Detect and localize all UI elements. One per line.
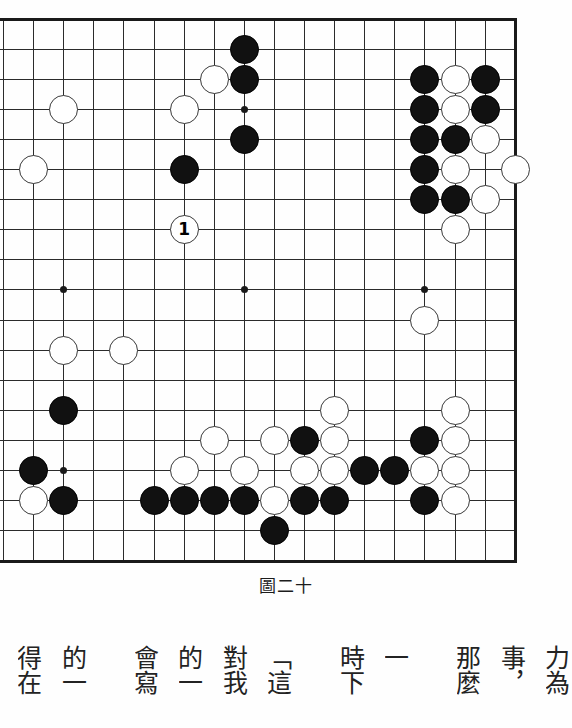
white-stone[interactable] <box>441 396 470 425</box>
white-stone[interactable] <box>200 65 229 94</box>
star-point <box>241 106 248 113</box>
grid-line-vertical <box>123 19 124 562</box>
white-stone[interactable] <box>441 486 470 515</box>
star-point <box>421 286 428 293</box>
text-column: 的一 <box>179 645 205 728</box>
text-column: 一 <box>385 645 411 728</box>
grid-line-horizontal <box>0 289 516 290</box>
white-stone[interactable] <box>260 426 289 455</box>
black-stone[interactable] <box>410 185 439 214</box>
white-stone[interactable] <box>410 306 439 335</box>
white-stone[interactable] <box>290 456 319 485</box>
black-stone[interactable] <box>410 125 439 154</box>
text-column: 「這 <box>268 645 294 728</box>
grid-line-vertical <box>214 19 215 562</box>
grid-line-vertical <box>154 19 155 562</box>
black-stone[interactable] <box>230 486 259 515</box>
grid-line-horizontal <box>0 259 516 260</box>
white-stone[interactable] <box>441 65 470 94</box>
white-stone[interactable] <box>501 155 530 184</box>
white-stone[interactable] <box>170 456 199 485</box>
white-stone[interactable] <box>170 95 199 124</box>
white-stone[interactable] <box>320 456 349 485</box>
board-edge-top <box>0 18 517 21</box>
page-root: 1 圖二十 力為事，那麼一時下「這對我的一會寫的一得在 <box>0 0 572 728</box>
black-stone[interactable] <box>471 95 500 124</box>
text-column: 對我 <box>223 645 249 728</box>
white-stone[interactable] <box>441 426 470 455</box>
grid-line-horizontal <box>0 229 516 230</box>
black-stone[interactable] <box>410 95 439 124</box>
grid-line-horizontal <box>0 530 516 531</box>
white-stone[interactable] <box>19 155 48 184</box>
white-stone[interactable] <box>410 456 439 485</box>
white-stone[interactable] <box>19 486 48 515</box>
board-edge-right <box>514 18 517 563</box>
text-column: 那麼 <box>457 645 483 728</box>
text-column: 的一 <box>62 645 88 728</box>
star-point <box>60 286 67 293</box>
black-stone[interactable] <box>49 396 78 425</box>
black-stone[interactable] <box>410 155 439 184</box>
black-stone[interactable] <box>290 486 319 515</box>
star-point <box>241 286 248 293</box>
figure-caption: 圖二十 <box>0 572 572 597</box>
black-stone[interactable] <box>290 426 319 455</box>
grid-line-vertical <box>93 19 94 562</box>
black-stone[interactable] <box>230 65 259 94</box>
black-stone[interactable] <box>410 486 439 515</box>
text-column: 事， <box>501 645 527 728</box>
black-stone[interactable] <box>200 486 229 515</box>
grid-line-horizontal <box>0 380 516 381</box>
white-stone[interactable] <box>441 215 470 244</box>
white-stone[interactable] <box>471 185 500 214</box>
white-stone[interactable] <box>49 95 78 124</box>
black-stone[interactable] <box>350 456 379 485</box>
black-stone[interactable] <box>441 125 470 154</box>
grid-line-vertical <box>3 19 4 562</box>
grid-line-vertical <box>274 19 275 562</box>
black-stone[interactable] <box>170 486 199 515</box>
vertical-text-block: 力為事，那麼一時下「這對我的一會寫的一得在 <box>0 645 572 728</box>
white-stone[interactable] <box>109 336 138 365</box>
text-column: 會寫 <box>135 645 161 728</box>
star-point <box>60 467 67 474</box>
black-stone[interactable] <box>441 185 470 214</box>
move-stone-1[interactable]: 1 <box>170 215 199 244</box>
white-stone[interactable] <box>441 95 470 124</box>
white-stone[interactable] <box>441 155 470 184</box>
black-stone[interactable] <box>410 426 439 455</box>
black-stone[interactable] <box>140 486 169 515</box>
white-stone[interactable] <box>320 396 349 425</box>
white-stone[interactable] <box>230 456 259 485</box>
black-stone[interactable] <box>471 65 500 94</box>
go-board-figure: 1 <box>0 0 572 566</box>
black-stone[interactable] <box>230 125 259 154</box>
black-stone[interactable] <box>320 486 349 515</box>
board-edge-bottom <box>0 560 517 563</box>
black-stone[interactable] <box>19 456 48 485</box>
black-stone[interactable] <box>49 486 78 515</box>
go-board[interactable]: 1 <box>0 0 572 566</box>
white-stone[interactable] <box>320 426 349 455</box>
white-stone[interactable] <box>260 486 289 515</box>
move-number-label: 1 <box>171 216 198 243</box>
white-stone[interactable] <box>200 426 229 455</box>
black-stone[interactable] <box>170 155 199 184</box>
white-stone[interactable] <box>471 125 500 154</box>
text-column: 時下 <box>340 645 366 728</box>
black-stone[interactable] <box>230 35 259 64</box>
text-column: 得在 <box>18 645 44 728</box>
white-stone[interactable] <box>49 336 78 365</box>
text-column: 力為 <box>546 645 572 728</box>
black-stone[interactable] <box>410 65 439 94</box>
black-stone[interactable] <box>380 456 409 485</box>
white-stone[interactable] <box>441 456 470 485</box>
black-stone[interactable] <box>260 516 289 545</box>
